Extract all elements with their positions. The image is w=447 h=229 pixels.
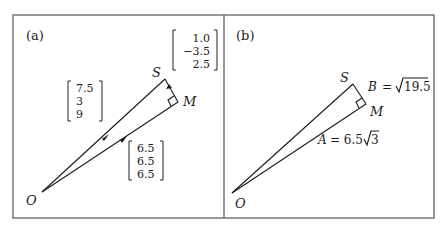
point-s-label-b: S [340,70,349,85]
point-o-label-a: O [26,193,37,208]
point-m-label-a: M [182,94,197,109]
bracket-right [160,141,163,180]
side-sm-line [353,84,366,104]
bracket-right [214,30,217,70]
right-angle-mark-b [356,98,362,108]
point-s-label-a: S [152,65,161,80]
right-angle-mark-a [168,96,174,106]
bracket-right [99,81,102,121]
arrow-om-icon [120,136,127,143]
matrix-entry: −3.5 [183,45,210,58]
arrow-ms-icon [166,84,172,89]
side-sm-line [165,79,178,102]
length-b-radicand: 19.5 [404,80,431,94]
matrix-entry: 7.5 [76,82,94,95]
length-a-eq: = 6.5 [330,133,363,147]
length-b-name: B [367,80,377,94]
matrix-entry: 2.5 [193,58,211,71]
side-om-line [232,104,366,193]
bracket-left [173,30,176,70]
vector-om-line [42,102,178,192]
panel-a-label: (a) [26,28,44,43]
panel-a: (a) S M O 7.5 3 9 6.5 6.5 6.5 [26,28,217,208]
matrix-entry: 6.5 [137,155,155,168]
matrix-entry: 6.5 [137,142,155,155]
matrix-entry: 1.0 [193,32,211,45]
point-m-label-b: M [369,104,384,119]
bracket-left [129,141,132,180]
length-a-label: A = 6.5 3 [317,131,379,147]
matrix-entry: 6.5 [137,168,155,181]
length-b-label: B = 19.5 [367,78,431,94]
vector-os-matrix: 7.5 3 9 [68,81,102,121]
panel-b-label: (b) [236,28,254,43]
length-a-name: A [317,133,327,147]
figure: (a) S M O 7.5 3 9 6.5 6.5 6.5 [0,0,447,229]
matrix-entry: 3 [76,95,83,108]
bracket-left [68,81,71,121]
length-a-radicand: 3 [371,133,379,147]
length-b-eq: = [382,80,392,94]
point-o-label-b: O [235,196,246,211]
matrix-entry: 9 [76,108,83,121]
panel-b: (b) S M O B = 19.5 A = 6.5 3 [232,28,431,211]
vector-om-matrix: 6.5 6.5 6.5 [129,141,163,181]
vector-ms-matrix: 1.0 −3.5 2.5 [173,30,217,71]
arrow-os-icon [102,134,109,141]
